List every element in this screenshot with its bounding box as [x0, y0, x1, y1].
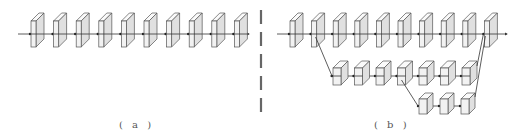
layer-block [31, 13, 44, 47]
sub-branch-block [419, 93, 433, 114]
layer-block [99, 13, 112, 47]
branch-block [376, 61, 391, 85]
panel-a-network [18, 13, 249, 47]
sub-branch-block [440, 93, 454, 114]
layer-block [420, 13, 433, 47]
branch-out-line [316, 37, 332, 76]
diagram-canvas: ( a ) ( b ) [0, 0, 518, 140]
branch-block [398, 61, 413, 85]
network-diagram [0, 0, 518, 140]
panel-a-caption: ( a ) [119, 119, 154, 130]
branch-block [355, 61, 370, 85]
branch-block [333, 61, 348, 85]
panel-b-caption: ( b ) [374, 119, 410, 130]
layer-block [212, 13, 225, 47]
branch-merge-line [477, 34, 483, 66]
layer-block [189, 13, 202, 47]
layer-block [144, 13, 157, 47]
layer-block [463, 13, 476, 47]
layer-block [121, 13, 134, 47]
layer-block [234, 13, 247, 47]
sub-branch-out-line [402, 80, 419, 106]
layer-block [355, 13, 368, 47]
branch-block [441, 61, 456, 85]
layer-block [54, 13, 67, 47]
layer-block [398, 13, 411, 47]
panel-b-network [277, 13, 507, 114]
layer-block [290, 13, 303, 47]
branch-block [462, 61, 477, 85]
layer-block [484, 13, 497, 47]
layer-block [333, 13, 346, 47]
layer-block [312, 13, 325, 47]
layer-block [76, 13, 89, 47]
branch-block [419, 61, 434, 85]
layer-block [167, 13, 180, 47]
layer-block [441, 13, 454, 47]
layer-block [376, 13, 389, 47]
sub-branch-block [461, 93, 475, 114]
